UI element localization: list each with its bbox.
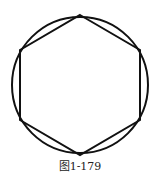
circumscribed-circle — [12, 17, 148, 153]
regular-hexagon — [20, 15, 140, 155]
inscribed-hexagon-diagram — [0, 0, 156, 173]
figure-caption: 图1-179 — [0, 157, 156, 173]
